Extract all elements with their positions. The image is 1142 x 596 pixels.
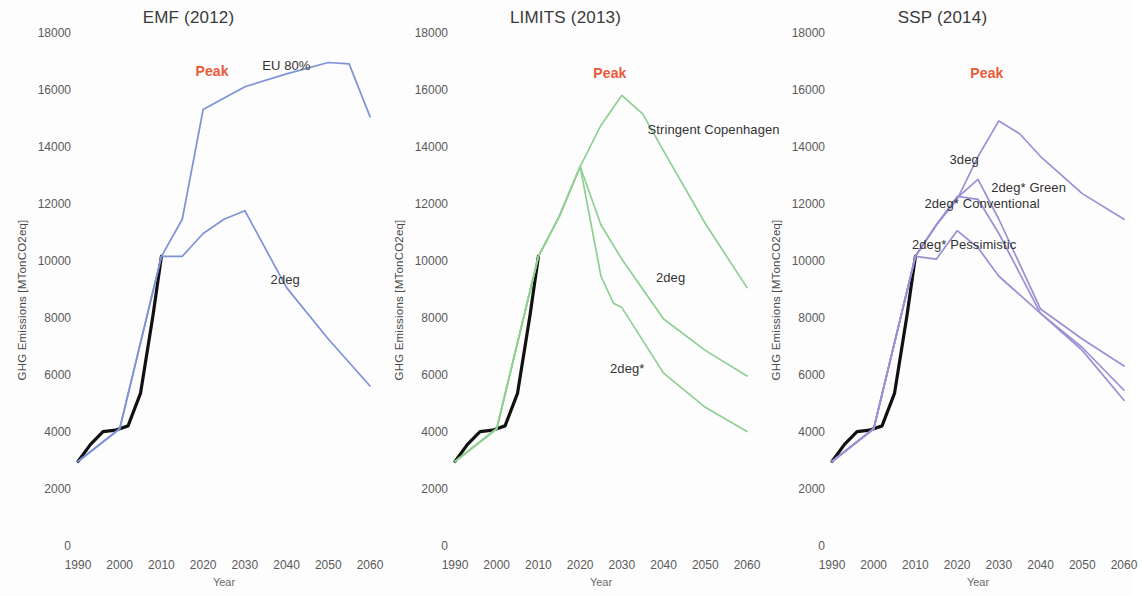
series-annotation: 3deg xyxy=(949,152,978,167)
panel-1: EMF (2012)GHG Emissions [MTonCO2eq]Year0… xyxy=(0,0,377,596)
panel-2: LIMITS (2013)GHG Emissions [MTonCO2eq]Ye… xyxy=(377,0,754,596)
series-line xyxy=(455,167,747,462)
series-annotation: 2deg* Pessimistic xyxy=(912,237,1016,252)
series-annotation: 2deg xyxy=(271,272,300,287)
series-annotation: EU 80% xyxy=(262,58,310,73)
series-annotation: 2deg xyxy=(656,270,685,285)
series-line xyxy=(78,256,161,461)
series-annotation: Peak xyxy=(970,65,1003,81)
series-line xyxy=(455,256,538,461)
series-annotation: 2deg* Green xyxy=(991,180,1066,195)
series-annotation: 2deg* Conventional xyxy=(924,196,1039,211)
series-line xyxy=(78,211,370,462)
plot-area xyxy=(754,0,1131,596)
plot-area xyxy=(377,0,754,596)
series-line xyxy=(832,256,915,461)
series-annotation: 2deg* xyxy=(610,361,644,376)
plot-area xyxy=(0,0,377,596)
panel-3: SSP (2014)GHG Emissions [MTonCO2eq]Year0… xyxy=(754,0,1131,596)
series-line xyxy=(832,121,1124,462)
series-annotation: Peak xyxy=(195,63,228,79)
series-annotation: Peak xyxy=(593,65,626,81)
series-line xyxy=(78,63,370,462)
